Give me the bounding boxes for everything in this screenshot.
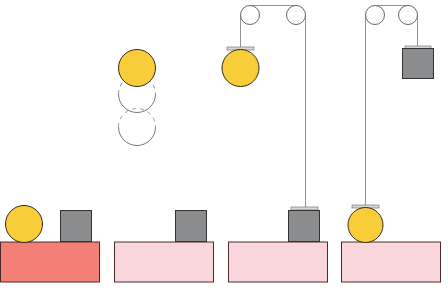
panel-3: [222, 6, 328, 283]
pulley-right: [399, 6, 418, 25]
ball: [6, 206, 43, 243]
physics-diagram: [0, 0, 448, 291]
ghost-ball-2: [119, 127, 156, 146]
ghost-ball-1: [119, 94, 156, 113]
box: [289, 211, 320, 242]
table: [1, 242, 100, 282]
box: [61, 211, 92, 242]
ball: [222, 50, 259, 87]
hook-plate: [291, 207, 318, 210]
box: [176, 211, 207, 242]
pulley-right: [287, 6, 306, 25]
ball: [119, 50, 156, 87]
ball: [348, 208, 383, 243]
pulley-left: [241, 6, 260, 25]
box: [403, 49, 434, 79]
table: [229, 242, 328, 282]
panel-4: [342, 6, 441, 283]
table: [342, 242, 441, 282]
table: [115, 242, 214, 282]
panel-2: [115, 50, 214, 283]
panel-1: [1, 206, 100, 283]
pulley-left: [366, 6, 385, 25]
ghost-ball-2-top: [119, 109, 156, 128]
